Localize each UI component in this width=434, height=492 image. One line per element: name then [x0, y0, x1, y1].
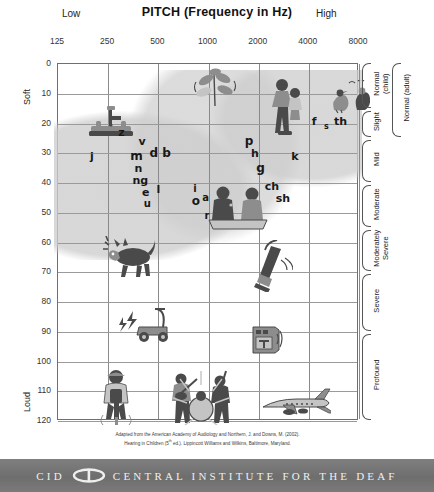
y-tick-label: 90	[29, 326, 51, 336]
gridline-horizontal	[58, 302, 357, 303]
severity-bracket	[362, 111, 371, 138]
speech-sound-r: r	[205, 211, 210, 221]
x-tick-label: 125	[50, 36, 64, 46]
speech-sound-p: p	[245, 135, 254, 147]
y-tick-label: 40	[29, 177, 51, 187]
severity-bracket	[362, 274, 371, 331]
severity-label: Normal(child)	[373, 61, 390, 106]
x-tick-label: 4000	[298, 36, 317, 46]
severity-bracket	[362, 185, 371, 227]
speech-sound-sh: sh	[276, 192, 290, 203]
illustration-leaves-rustling	[192, 68, 238, 108]
illustration-lawn-mower	[119, 303, 173, 343]
x-tick-label: 1000	[198, 36, 217, 46]
normal-adult-label: Normal (adult)	[403, 61, 412, 135]
speech-sound-l: l	[156, 183, 160, 194]
speech-sound-g: g	[256, 162, 265, 174]
speech-sound-a: a	[202, 193, 209, 203]
severity-bracket	[362, 230, 371, 272]
y-tick-label: 10	[29, 88, 51, 98]
speech-sound-u: u	[144, 199, 151, 209]
speech-sound-d: d	[150, 147, 159, 159]
footer-banner: CID CENTRAL INSTITUTE FOR THE DEAF	[0, 459, 434, 492]
pitch-high-label: High	[316, 8, 337, 19]
loudness-soft-label: Soft	[22, 89, 32, 105]
y-tick-label: 50	[29, 207, 51, 217]
y-tick-label: 60	[29, 237, 51, 247]
severity-label: Moderate	[373, 183, 382, 225]
chart-header: Low PITCH (Frequency in Hz) High	[0, 0, 434, 30]
y-tick-label: 100	[29, 356, 51, 366]
y-tick-label: 70	[29, 266, 51, 276]
illustration-jet-airplane	[259, 388, 331, 424]
speech-sound-i: i	[193, 184, 196, 194]
gridline-horizontal	[58, 153, 357, 154]
pitch-axis-title: PITCH (Frequency in Hz)	[0, 5, 434, 19]
speech-sound-m: m	[130, 150, 143, 162]
footer-organization-name: CENTRAL INSTITUTE FOR THE DEAF	[113, 470, 398, 482]
severity-label: Profound	[373, 332, 382, 418]
x-tick-label: 8000	[349, 36, 368, 46]
illustration-mother-and-child	[268, 76, 308, 136]
source-citation: Adapted from the American Academy of Aud…	[57, 432, 358, 447]
severity-label: Severe	[373, 272, 382, 329]
cid-oval-logo	[72, 468, 106, 483]
illustration-radio-speaker	[249, 321, 283, 355]
speech-sound-n: n	[135, 163, 143, 174]
speech-sound-k: k	[291, 151, 298, 162]
gridline-horizontal	[58, 362, 357, 363]
y-tick-label: 80	[29, 296, 51, 306]
audiogram-plot: zvjmdbnngeluioarphgkchshfsth	[57, 63, 358, 420]
speech-sound-ng: ng	[133, 175, 149, 186]
severity-bracket	[362, 334, 371, 420]
illustration-vacuum-cleaner	[251, 240, 293, 292]
speech-sound-s: s	[324, 123, 329, 131]
speech-sound-z: z	[118, 127, 124, 138]
gridline-vertical	[359, 64, 360, 419]
y-tick-label: 120	[29, 415, 51, 425]
illustration-two-people-talking	[207, 183, 269, 231]
y-tick-label: 0	[29, 58, 51, 68]
citation-line-2: Hearing in Children (5th ed.). Lippincot…	[57, 439, 358, 447]
y-tick-label: 30	[29, 147, 51, 157]
x-tick-label: 500	[150, 36, 164, 46]
y-tick-label: 20	[29, 118, 51, 128]
severity-label: Mild	[373, 138, 382, 180]
hearing-loss-severity-scale: Normal(child)SlightMildModerateModeratel…	[362, 63, 434, 420]
speech-sound-b: b	[162, 147, 171, 159]
illustration-dog-barking	[99, 236, 161, 278]
y-tick-label: 110	[29, 385, 51, 395]
speech-sound-f: f	[312, 115, 317, 126]
speech-sound-ch: ch	[265, 181, 279, 192]
normal-adult-bracket	[392, 63, 401, 137]
severity-bracket	[362, 63, 371, 108]
gridline-vertical	[209, 64, 210, 419]
loudness-loud-label: Loud	[22, 392, 32, 412]
x-tick-label: 250	[100, 36, 114, 46]
severity-bracket	[362, 140, 371, 182]
speech-sound-e: e	[142, 186, 149, 197]
footer-abbreviation: CID	[36, 470, 65, 482]
speech-sound-h: h	[251, 148, 259, 159]
citation-line-1: Adapted from the American Academy of Aud…	[57, 432, 358, 439]
speech-sound-j: j	[90, 151, 94, 162]
severity-label: ModeratelySevere	[373, 228, 390, 270]
illustration-jackhammer	[97, 369, 135, 425]
speech-sound-o: o	[192, 195, 200, 207]
speech-sound-th: th	[334, 115, 347, 126]
speech-sound-v: v	[139, 136, 146, 147]
illustration-faucet-dripping	[85, 104, 137, 138]
severity-label: Slight	[373, 109, 382, 136]
illustration-rock-band	[165, 369, 237, 425]
gridline-vertical	[309, 64, 310, 419]
gridline-horizontal	[58, 332, 357, 333]
x-tick-label: 2000	[248, 36, 267, 46]
